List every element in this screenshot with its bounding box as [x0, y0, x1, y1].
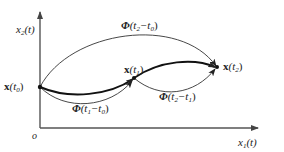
label-x-t2: x(t2)	[223, 61, 242, 74]
label-x-t0: x(t0)	[4, 81, 23, 94]
point-x-t0	[38, 85, 42, 89]
x-axis-label: x1(t)	[238, 137, 257, 150]
origin-label: o	[32, 131, 37, 141]
trajectory-t0-t1	[40, 79, 133, 94]
arc-phi-t2-t1	[134, 69, 215, 92]
point-x-t2	[215, 65, 219, 69]
label-phi-t1-t0: Φ(t1−t0)	[72, 103, 109, 116]
y-axis-label: x2(t)	[16, 24, 35, 37]
label-phi-t2-t1: Φ(t2−t1)	[159, 91, 196, 104]
trajectory-t1-t2	[134, 62, 215, 78]
label-x-t1: x(t1)	[124, 64, 143, 77]
label-phi-t2-t0: Φ(t2−t0)	[121, 20, 158, 33]
